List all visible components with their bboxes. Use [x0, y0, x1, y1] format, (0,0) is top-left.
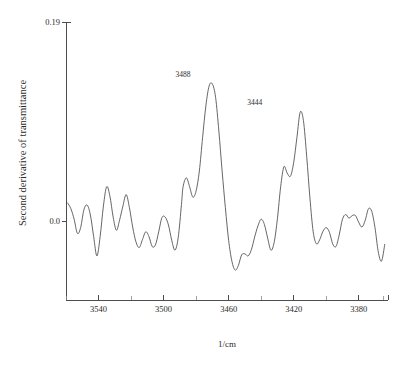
peak-label: 3488	[176, 70, 191, 79]
y-axis-title: Second derivative of transmittance	[17, 80, 28, 226]
x-axis-tick-label: 3540	[90, 304, 107, 314]
ticks-layer	[62, 22, 388, 300]
tick-labels-layer: 0.190.035403500346034203380	[45, 17, 367, 314]
y-axis-tick-label: 0.19	[45, 17, 60, 27]
x-axis-title: 1/cm	[218, 339, 236, 349]
spectrum-curve	[68, 83, 385, 270]
x-axis-tick-label: 3500	[155, 304, 172, 314]
y-axis-tick-label: 0.0	[49, 216, 60, 226]
x-axis-tick-label: 3460	[220, 304, 237, 314]
x-axis-tick-label: 3420	[285, 304, 302, 314]
peak-annotations-layer: 34883444	[176, 70, 263, 107]
figure-container: 0.190.035403500346034203380 34883444 1/c…	[0, 0, 410, 365]
curve-layer	[68, 83, 385, 270]
peak-label: 3444	[247, 98, 262, 107]
axis-titles-layer: 1/cmSecond derivative of transmittance	[17, 80, 236, 349]
spectrum-chart: 0.190.035403500346034203380 34883444 1/c…	[0, 0, 410, 365]
axes-layer	[66, 22, 388, 300]
x-axis-tick-label: 3380	[350, 304, 367, 314]
